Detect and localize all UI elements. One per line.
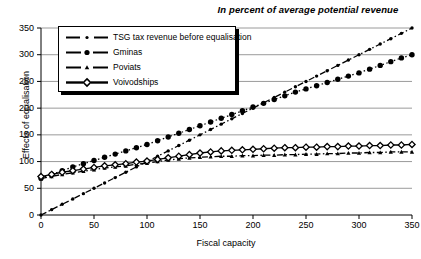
data-point [377,142,383,148]
data-point [282,145,288,151]
legend-label-gminas: Gminas [113,47,142,58]
data-point [103,181,106,184]
data-point [198,133,201,136]
data-point [113,151,118,156]
data-point [314,83,319,88]
data-point [346,151,350,155]
data-point [50,208,53,211]
legend-label-voivodships: Voivodships [113,77,158,88]
data-point [388,142,394,148]
data-point [379,42,382,45]
data-point [367,142,373,148]
data-point [325,80,330,85]
series-line [41,152,412,179]
data-point [378,63,383,68]
x-tick-label-300: 300 [344,221,374,230]
legend-label-poviats: Poviats [113,62,141,73]
data-point [356,143,362,149]
data-point [208,119,213,124]
data-point [324,144,330,150]
data-point [315,74,318,77]
data-point [250,146,256,152]
data-point [347,58,350,61]
x-tick-label-350: 350 [397,221,421,230]
data-point [357,53,360,56]
data-point [282,93,287,98]
data-point [230,117,233,120]
y-tick-label-350: 350 [0,24,34,33]
data-point [326,69,329,72]
data-point [409,52,414,57]
data-point [367,66,372,71]
data-point [229,147,235,153]
legend-swatch-poviats [65,62,109,73]
data-point [335,77,340,82]
data-point [388,59,393,64]
data-point [144,142,149,147]
data-point [335,144,341,150]
y-tick-label-100: 100 [0,157,34,166]
data-point [218,148,224,154]
data-point [186,152,192,158]
data-point [91,158,96,163]
data-point [398,142,404,148]
data-point [71,197,74,200]
legend-item-voivodships: Voivodships [65,75,235,90]
legend-item-gminas: Gminas [65,45,235,60]
data-point [409,141,415,147]
data-point [124,171,127,174]
data-point [293,89,298,94]
data-point [240,108,245,113]
x-tick-label-50: 50 [79,221,109,230]
data-point [166,134,171,139]
data-point [134,145,139,150]
data-point [272,97,277,102]
data-point [39,213,42,216]
data-point [400,32,403,35]
data-point [219,116,224,121]
y-tick-label-300: 300 [0,50,34,59]
data-point [292,145,298,151]
data-point [155,138,160,143]
data-point [167,149,170,152]
y-tick-label-150: 150 [0,130,34,139]
data-point [304,80,307,83]
data-point [61,203,64,206]
x-tick-label-200: 200 [238,221,268,230]
y-tick-label-0: 0 [0,211,34,220]
data-point [314,144,320,150]
data-point [102,155,107,160]
legend-item-tsg: TSG tax revenue before equalisation [65,30,235,45]
data-point [368,48,371,51]
data-point [188,139,191,142]
data-point [114,176,117,179]
chart-legend: TSG tax revenue before equalisation Gmin… [58,26,236,92]
data-point [345,143,351,149]
y-tick-label-200: 200 [0,104,34,113]
data-point [197,123,202,128]
data-point [410,26,413,29]
data-point [82,192,85,195]
data-point [261,101,266,106]
data-point [208,149,214,155]
data-point [303,86,308,91]
x-tick-label-0: 0 [26,221,56,230]
data-point [197,150,203,156]
legend-swatch-gminas [65,47,109,58]
data-point [187,127,192,132]
data-point [271,145,277,151]
data-point [92,187,95,190]
y-tick-label-250: 250 [0,77,34,86]
data-point [399,55,404,60]
data-point [303,144,309,150]
data-point [209,128,212,131]
data-point [389,37,392,40]
data-point [250,104,255,109]
y-tick-label-50: 50 [0,184,34,193]
data-point [177,144,180,147]
data-point [220,122,223,125]
data-point [336,64,339,67]
data-point [261,146,267,152]
data-point [356,70,361,75]
data-point [229,112,234,117]
